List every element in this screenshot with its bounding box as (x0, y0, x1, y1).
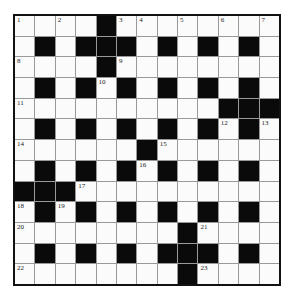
grid-cell[interactable] (137, 264, 156, 284)
grid-cell[interactable] (158, 223, 177, 243)
grid-cell[interactable] (239, 140, 258, 160)
grid-cell[interactable] (219, 57, 238, 77)
grid-cell[interactable] (198, 16, 217, 36)
grid-cell[interactable] (76, 140, 95, 160)
grid-cell[interactable] (219, 78, 238, 98)
grid-cell[interactable] (15, 78, 34, 98)
grid-cell[interactable]: 6 (219, 16, 238, 36)
grid-cell[interactable] (97, 182, 116, 202)
grid-cell[interactable] (137, 99, 156, 119)
grid-cell[interactable] (239, 264, 258, 284)
grid-cell[interactable] (56, 119, 75, 139)
grid-cell[interactable]: 9 (117, 57, 136, 77)
grid-cell[interactable] (158, 99, 177, 119)
grid-cell[interactable] (260, 202, 279, 222)
grid-cell[interactable] (35, 99, 54, 119)
grid-cell[interactable] (137, 78, 156, 98)
grid-cell[interactable] (260, 161, 279, 181)
grid-cell[interactable] (260, 78, 279, 98)
grid-cell[interactable] (260, 57, 279, 77)
grid-cell[interactable]: 7 (260, 16, 279, 36)
grid-cell[interactable] (178, 37, 197, 57)
grid-cell[interactable] (76, 16, 95, 36)
grid-cell[interactable] (178, 161, 197, 181)
grid-cell[interactable] (15, 119, 34, 139)
grid-cell[interactable] (158, 57, 177, 77)
grid-cell[interactable] (178, 119, 197, 139)
grid-cell[interactable] (76, 57, 95, 77)
grid-cell[interactable]: 23 (198, 264, 217, 284)
grid-cell[interactable] (56, 161, 75, 181)
grid-cell[interactable] (219, 140, 238, 160)
grid-cell[interactable] (137, 57, 156, 77)
grid-cell[interactable]: 18 (15, 202, 34, 222)
grid-cell[interactable] (137, 244, 156, 264)
grid-cell[interactable] (219, 244, 238, 264)
grid-cell[interactable] (97, 99, 116, 119)
grid-cell[interactable] (117, 99, 136, 119)
grid-cell[interactable] (158, 264, 177, 284)
grid-cell[interactable] (97, 202, 116, 222)
grid-cell[interactable]: 4 (137, 16, 156, 36)
grid-cell[interactable] (137, 37, 156, 57)
grid-cell[interactable]: 2 (56, 16, 75, 36)
grid-cell[interactable] (219, 223, 238, 243)
grid-cell[interactable]: 19 (56, 202, 75, 222)
grid-cell[interactable]: 10 (97, 78, 116, 98)
grid-cell[interactable] (56, 37, 75, 57)
grid-cell[interactable] (56, 78, 75, 98)
grid-cell[interactable]: 14 (15, 140, 34, 160)
grid-cell[interactable] (137, 202, 156, 222)
grid-cell[interactable] (198, 57, 217, 77)
grid-cell[interactable] (178, 202, 197, 222)
grid-cell[interactable]: 15 (158, 140, 177, 160)
grid-cell[interactable] (158, 182, 177, 202)
grid-cell[interactable] (260, 140, 279, 160)
grid-cell[interactable] (219, 161, 238, 181)
grid-cell[interactable] (117, 223, 136, 243)
grid-cell[interactable] (15, 161, 34, 181)
grid-cell[interactable]: 1 (15, 16, 34, 36)
grid-cell[interactable] (178, 140, 197, 160)
grid-cell[interactable] (239, 223, 258, 243)
grid-cell[interactable]: 13 (260, 119, 279, 139)
grid-cell[interactable] (97, 119, 116, 139)
grid-cell[interactable] (56, 99, 75, 119)
grid-cell[interactable] (158, 16, 177, 36)
grid-cell[interactable] (137, 119, 156, 139)
grid-cell[interactable] (260, 223, 279, 243)
grid-cell[interactable] (97, 161, 116, 181)
grid-cell[interactable] (117, 264, 136, 284)
grid-cell[interactable]: 12 (219, 119, 238, 139)
grid-cell[interactable] (178, 57, 197, 77)
grid-cell[interactable] (15, 37, 34, 57)
grid-cell[interactable] (76, 264, 95, 284)
grid-cell[interactable] (137, 182, 156, 202)
grid-cell[interactable] (260, 264, 279, 284)
grid-cell[interactable]: 22 (15, 264, 34, 284)
grid-cell[interactable] (15, 244, 34, 264)
grid-cell[interactable] (56, 223, 75, 243)
grid-cell[interactable] (76, 223, 95, 243)
grid-cell[interactable] (56, 140, 75, 160)
grid-cell[interactable] (35, 264, 54, 284)
grid-cell[interactable] (35, 140, 54, 160)
grid-cell[interactable] (239, 16, 258, 36)
grid-cell[interactable] (117, 140, 136, 160)
grid-cell[interactable] (76, 99, 95, 119)
grid-cell[interactable] (178, 99, 197, 119)
grid-cell[interactable] (260, 244, 279, 264)
grid-cell[interactable]: 3 (117, 16, 136, 36)
grid-cell[interactable] (97, 140, 116, 160)
grid-cell[interactable] (219, 182, 238, 202)
grid-cell[interactable] (219, 202, 238, 222)
grid-cell[interactable]: 21 (198, 223, 217, 243)
grid-cell[interactable] (97, 223, 116, 243)
grid-cell[interactable] (239, 57, 258, 77)
grid-cell[interactable] (219, 264, 238, 284)
grid-cell[interactable] (137, 223, 156, 243)
grid-cell[interactable]: 16 (137, 161, 156, 181)
grid-cell[interactable] (56, 264, 75, 284)
grid-cell[interactable] (198, 99, 217, 119)
grid-cell[interactable] (198, 140, 217, 160)
